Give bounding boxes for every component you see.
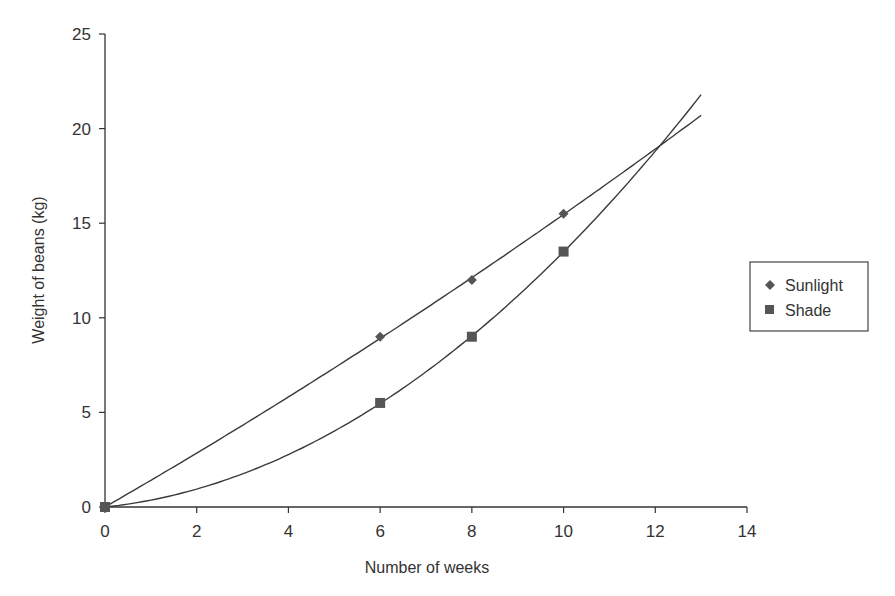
square-marker <box>559 247 569 257</box>
y-tick-label: 0 <box>82 498 91 517</box>
data-markers <box>100 209 569 512</box>
x-tick-label: 2 <box>192 522 201 541</box>
diamond-marker <box>467 275 477 285</box>
y-tick-label: 20 <box>72 120 91 139</box>
x-tick-label: 8 <box>467 522 476 541</box>
trendline-sunlight <box>105 115 701 507</box>
x-tick-label: 14 <box>738 522 757 541</box>
x-tick-label: 10 <box>554 522 573 541</box>
y-tick-label: 15 <box>72 214 91 233</box>
chart-canvas: 051015202502468101214 Number of weeks We… <box>0 0 895 596</box>
legend: Sunlight Shade <box>750 262 868 331</box>
x-tick-label: 0 <box>100 522 109 541</box>
y-tick-label: 10 <box>72 309 91 328</box>
square-marker <box>375 398 385 408</box>
x-tick-label: 6 <box>375 522 384 541</box>
y-axis-title: Weight of beans (kg) <box>30 196 47 343</box>
square-marker <box>467 332 477 342</box>
legend-box <box>750 262 868 331</box>
axes: 051015202502468101214 <box>72 25 756 541</box>
x-tick-label: 4 <box>284 522 293 541</box>
y-tick-label: 5 <box>82 403 91 422</box>
x-tick-label: 12 <box>646 522 665 541</box>
x-axis-title: Number of weeks <box>365 559 490 576</box>
square-icon <box>765 305 774 314</box>
legend-label-shade: Shade <box>785 302 831 319</box>
square-marker <box>100 502 110 512</box>
legend-label-sunlight: Sunlight <box>785 277 843 294</box>
y-tick-label: 25 <box>72 25 91 44</box>
trendline-shade <box>105 95 701 507</box>
trendlines <box>105 95 701 507</box>
